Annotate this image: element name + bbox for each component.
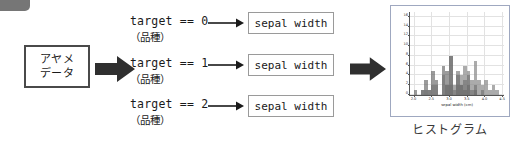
x-axis-tick-mark [449, 95, 450, 97]
x-axis-label: sepal width (cm) [441, 102, 473, 107]
column-box-label-1: sepal width [255, 59, 328, 72]
gridline-vertical [414, 12, 415, 95]
condition-label-1: target == 1 （品種） [130, 56, 208, 86]
x-axis-tick-mark [431, 95, 432, 97]
branch-arrow-0-icon [208, 18, 244, 28]
column-box-label-2: sepal width [255, 100, 328, 113]
gridline-horizontal [410, 26, 504, 27]
column-box-0: sepal width [248, 12, 334, 34]
column-box-label-0: sepal width [255, 17, 328, 30]
x-axis-tick-mark [502, 95, 503, 97]
y-axis-tick-mark [408, 94, 410, 95]
x-axis-tick-mark [414, 95, 415, 97]
histogram-bar [474, 85, 478, 95]
branch-arrow-2-icon [208, 101, 244, 111]
column-box-1: sepal width [248, 54, 334, 76]
x-axis-tick-label: 4.5 [499, 97, 505, 101]
split-block-arrow-icon [95, 56, 135, 82]
condition-code-2: target == 2 [130, 97, 208, 113]
y-axis-tick-mark [408, 26, 410, 27]
x-axis-tick-label: 2.5 [428, 97, 434, 101]
result-block-arrow-icon [350, 56, 386, 82]
x-axis-tick-label: 4.0 [482, 97, 488, 101]
y-axis-tick-mark [408, 16, 410, 17]
histogram-bar [421, 90, 425, 95]
corner-badge [0, 0, 30, 11]
condition-note-0: （品種） [130, 30, 208, 44]
x-axis-tick-label: 3.5 [464, 97, 470, 101]
condition-note-2: （品種） [130, 113, 208, 127]
condition-code-0: target == 0 [130, 14, 208, 30]
gridline-horizontal [410, 65, 504, 66]
condition-note-1: （品種） [130, 72, 208, 86]
condition-label-2: target == 2 （品種） [130, 97, 208, 127]
histogram-bar [495, 90, 499, 95]
source-data-line1: アヤメ [40, 53, 75, 67]
condition-code-1: target == 1 [130, 56, 208, 72]
y-axis-tick-mark [408, 84, 410, 85]
condition-label-0: target == 0 （品種） [130, 14, 208, 44]
x-axis-tick-label: 2.0 [411, 97, 417, 101]
gridline-horizontal [410, 16, 504, 17]
gridline-vertical [502, 12, 503, 95]
source-data-line2: データ [40, 67, 75, 81]
histogram-panel: 02468101214162.02.53.03.54.04.5sepal wid… [390, 5, 510, 117]
y-axis-tick-mark [408, 65, 410, 66]
y-axis-tick-mark [408, 45, 410, 46]
x-axis-tick-mark [467, 95, 468, 97]
x-axis-tick-mark [484, 95, 485, 97]
source-data-box: アヤメ データ [24, 45, 90, 88]
diagram-canvas: アヤメ データ target == 0 （品種） sepal width tar… [0, 0, 530, 142]
histogram-plot-area: 02468101214162.02.53.03.54.04.5sepal wid… [409, 12, 504, 96]
branch-arrow-1-icon [208, 60, 244, 70]
y-axis-tick-mark [408, 55, 410, 56]
y-axis-tick-mark [408, 35, 410, 36]
column-box-2: sepal width [248, 95, 334, 117]
y-axis-tick-mark [408, 74, 410, 75]
gridline-horizontal [410, 55, 504, 56]
x-axis-tick-label: 3.0 [446, 97, 452, 101]
histogram-caption: ヒストグラム [390, 120, 510, 137]
gridline-horizontal [410, 35, 504, 36]
gridline-horizontal [410, 45, 504, 46]
histogram-bar [435, 85, 439, 95]
